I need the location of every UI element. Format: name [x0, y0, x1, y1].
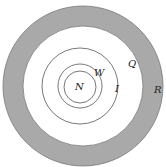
label-R: R: [153, 84, 162, 95]
label-N: N: [74, 81, 85, 92]
label-W: W: [94, 67, 105, 78]
label-Q: Q: [128, 58, 136, 69]
concentric-circle-diagram: N W I Q R: [0, 0, 166, 167]
